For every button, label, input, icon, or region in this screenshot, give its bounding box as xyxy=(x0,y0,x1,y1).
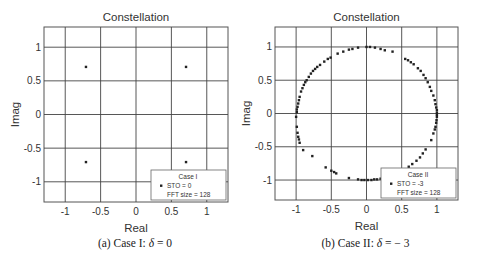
data-point xyxy=(430,90,432,92)
data-point xyxy=(316,66,318,68)
data-point xyxy=(374,46,376,48)
caption-equation: = 0 xyxy=(157,237,172,249)
constellation-plot-case-1: -1-0.500.51-1-0.500.51ConstellationRealI… xyxy=(0,0,238,236)
data-point xyxy=(300,90,302,92)
data-point xyxy=(412,63,414,65)
data-point xyxy=(311,155,313,157)
caption-equation: = − 3 xyxy=(385,237,409,249)
data-point xyxy=(429,86,431,88)
data-point xyxy=(434,128,436,130)
data-point xyxy=(329,56,331,58)
data-point xyxy=(302,149,304,151)
y-tick-label: 1 xyxy=(35,42,41,53)
legend-entry: STO = -3 xyxy=(397,180,424,187)
data-point xyxy=(297,102,299,104)
data-point xyxy=(314,68,316,70)
data-point xyxy=(432,94,434,96)
data-point xyxy=(333,171,335,173)
data-point xyxy=(360,179,362,181)
data-point xyxy=(357,46,359,48)
y-tick-label: 0 xyxy=(266,108,272,119)
x-tick-label: 1 xyxy=(434,204,440,215)
data-point xyxy=(435,122,437,124)
data-point xyxy=(323,60,325,62)
caption-prefix: (b) Case II: xyxy=(322,237,374,249)
data-point xyxy=(411,163,413,165)
data-point xyxy=(303,84,305,86)
data-point xyxy=(298,99,300,101)
data-point xyxy=(430,139,432,141)
data-point xyxy=(415,160,417,162)
legend: Case IISTO = -3FFT size = 128 xyxy=(381,168,456,198)
chart-title: Constellation xyxy=(103,11,169,23)
data-point xyxy=(363,179,365,181)
data-point xyxy=(297,136,299,138)
data-point xyxy=(348,177,350,179)
x-tick-label: 0.5 xyxy=(164,206,178,217)
y-tick-label: -0.5 xyxy=(255,141,273,152)
data-point xyxy=(298,138,300,140)
data-point xyxy=(301,87,303,89)
data-point xyxy=(85,66,87,68)
data-point xyxy=(296,106,298,108)
data-point xyxy=(298,96,300,98)
chart-title: Constellation xyxy=(333,11,399,23)
data-point xyxy=(422,74,424,76)
data-point xyxy=(336,52,338,54)
data-point xyxy=(308,76,310,78)
panel-case-1: -1-0.500.51-1-0.500.51ConstellationRealI… xyxy=(0,0,238,266)
plot-area: -1-0.500.51-1-0.500.51ConstellationRealI… xyxy=(240,11,458,232)
data-point xyxy=(391,50,393,52)
data-point xyxy=(419,156,421,158)
data-point xyxy=(85,161,87,163)
data-point xyxy=(427,81,429,83)
data-point xyxy=(296,126,298,128)
data-point xyxy=(305,79,307,81)
data-point xyxy=(348,48,350,50)
data-point xyxy=(185,66,187,68)
data-point xyxy=(379,48,381,50)
legend-entry: STO = 0 xyxy=(167,182,192,189)
caption-prefix: (a) Case I: xyxy=(98,237,146,249)
data-point xyxy=(296,111,298,113)
data-point xyxy=(404,58,406,60)
legend-title: Case I xyxy=(179,173,198,180)
data-point xyxy=(432,132,434,134)
data-point xyxy=(434,103,436,105)
legend-entry: FFT size = 128 xyxy=(397,189,441,196)
y-tick-label: -1 xyxy=(263,175,272,186)
data-point xyxy=(370,179,372,181)
data-point xyxy=(296,108,298,110)
data-point xyxy=(424,148,426,150)
data-point xyxy=(335,172,337,174)
data-point xyxy=(295,116,297,118)
data-point xyxy=(319,64,321,66)
data-point xyxy=(330,170,332,172)
caption-delta-symbol: δ xyxy=(149,237,154,249)
data-point xyxy=(419,70,421,72)
data-point xyxy=(296,132,298,134)
y-tick-label: 0.5 xyxy=(27,75,41,86)
legend: Case ISTO = 0FFT size = 128 xyxy=(151,170,226,200)
data-point xyxy=(434,126,436,128)
y-tick-label: 0.5 xyxy=(258,75,272,86)
data-point xyxy=(324,166,326,168)
data-point xyxy=(357,178,359,180)
data-point xyxy=(367,179,369,181)
data-point xyxy=(435,106,437,108)
data-point xyxy=(376,178,378,180)
data-point xyxy=(435,119,437,121)
x-axis-label: Real xyxy=(124,222,148,234)
data-point xyxy=(422,152,424,154)
data-point xyxy=(436,116,438,118)
x-axis-label: Real xyxy=(355,220,379,232)
data-point xyxy=(373,178,375,180)
legend-entry: FFT size = 128 xyxy=(167,191,211,198)
data-point xyxy=(298,142,300,144)
data-point xyxy=(312,70,314,72)
data-point xyxy=(424,77,426,79)
data-point xyxy=(410,61,412,63)
data-point xyxy=(351,48,353,50)
data-point xyxy=(365,46,367,48)
caption-delta-symbol: δ xyxy=(377,237,382,249)
